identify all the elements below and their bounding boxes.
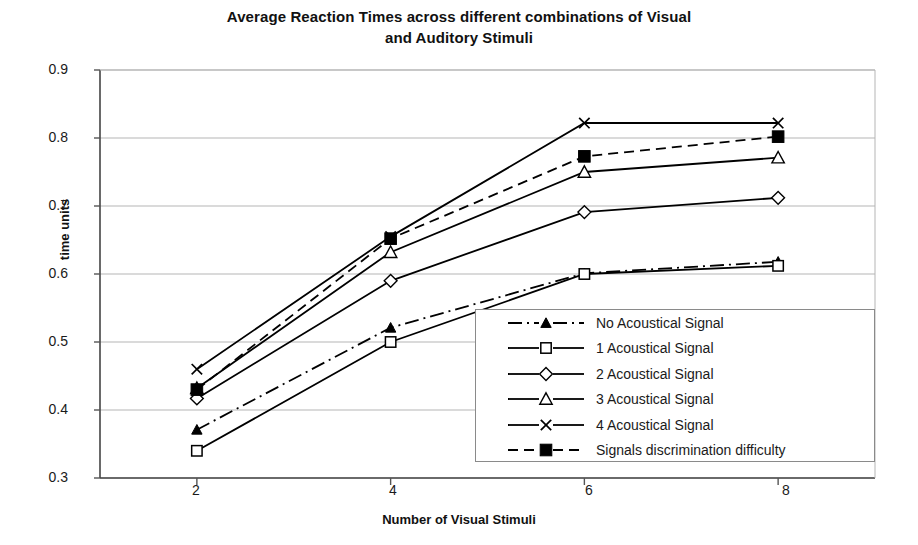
data-point-2-2 [578,206,591,219]
data-point-1-2 [579,269,589,279]
legend-marker-cross-x-icon [504,414,588,436]
legend-label-1: 1 Acoustical Signal [588,340,714,356]
data-point-1-1 [385,337,395,347]
legend-label-0: No Acoustical Signal [588,315,724,331]
legend-marker-filled-square-icon [504,439,588,461]
data-point-5-1 [385,233,397,245]
legend-item-4[interactable]: 4 Acoustical Signal [476,412,874,438]
legend-label-4: 4 Acoustical Signal [588,417,714,433]
legend-label-3: 3 Acoustical Signal [588,391,714,407]
legend-label-5: Signals discrimination difficulty [588,442,786,458]
legend-item-0[interactable]: No Acoustical Signal [476,310,874,336]
data-point-3-1 [384,246,396,257]
data-point-5-3 [772,131,784,143]
data-point-1-3 [773,261,783,271]
data-point-2-3 [772,191,785,204]
data-point-0-0 [192,425,202,435]
data-point-0-1 [385,323,395,333]
chart-figure: Average Reaction Times across different … [0,0,918,545]
chart-legend: No Acoustical Signal 1 Acoustical Signal… [475,309,875,462]
legend-item-3[interactable]: 3 Acoustical Signal [476,387,874,413]
legend-marker-open-diamond-icon [504,363,588,385]
data-point-1-0 [192,446,202,456]
legend-marker-filled-triangle-icon [504,312,588,334]
legend-item-5[interactable]: Signals discrimination difficulty [476,438,874,464]
legend-label-2: 2 Acoustical Signal [588,366,714,382]
plot-canvas [0,0,918,545]
legend-item-1[interactable]: 1 Acoustical Signal [476,336,874,362]
data-point-5-0 [191,384,203,396]
data-point-2-1 [384,274,397,287]
data-point-4-0 [192,364,202,374]
data-point-5-2 [579,151,591,163]
legend-marker-open-square-icon [504,337,588,359]
legend-item-2[interactable]: 2 Acoustical Signal [476,361,874,387]
legend-marker-open-triangle-icon [504,388,588,410]
